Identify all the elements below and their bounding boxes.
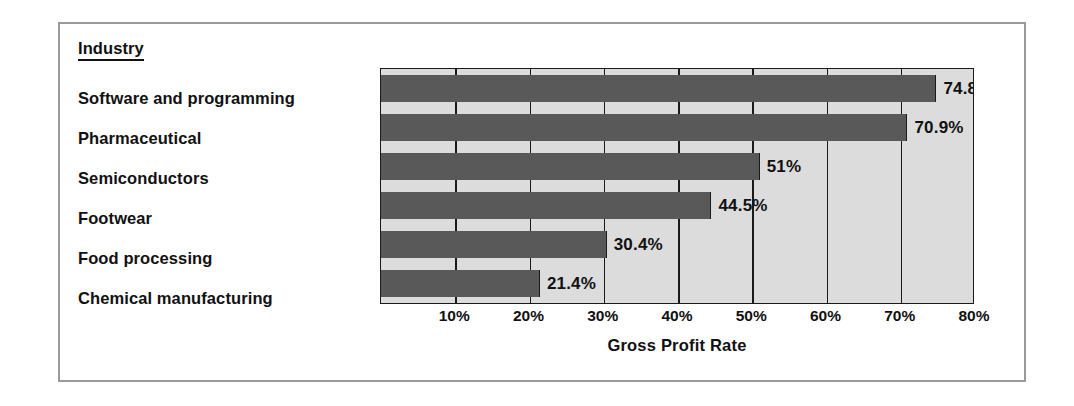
- bar-row-chemical-manufacturing: 21.4%: [381, 264, 973, 303]
- bar-row-footwear: 44.5%: [381, 186, 973, 225]
- category-label-footwear: Footwear: [78, 198, 378, 238]
- bar-row-software: 74.8%: [381, 69, 973, 108]
- x-tick-10%: 10%: [439, 307, 470, 325]
- category-label-pharmaceutical: Pharmaceutical: [78, 118, 378, 158]
- bar-row-semiconductors: 51%: [381, 147, 973, 186]
- bar-pharmaceutical: [381, 114, 907, 141]
- x-axis-title: Gross Profit Rate: [380, 336, 974, 355]
- bar-row-food-processing: 30.4%: [381, 225, 973, 264]
- bar-food-processing: [381, 231, 607, 258]
- bar-value-label-food-processing: 30.4%: [614, 235, 663, 255]
- bar-value-label-semiconductors: 51%: [767, 157, 802, 177]
- bar-value-label-chemical-manufacturing: 21.4%: [547, 274, 596, 294]
- x-tick-20%: 20%: [513, 307, 544, 325]
- category-label-food-processing: Food processing: [78, 238, 378, 278]
- x-tick-50%: 50%: [736, 307, 767, 325]
- bar-semiconductors: [381, 153, 760, 180]
- bar-value-label-software: 74.8%: [943, 79, 974, 99]
- x-tick-60%: 60%: [810, 307, 841, 325]
- bar-software: [381, 75, 936, 102]
- bar-chart: 74.8%70.9%51%44.5%30.4%21.4% 10%20%30%40…: [380, 68, 976, 306]
- industry-column-header: Industry: [78, 38, 144, 61]
- category-label-chemical-manufacturing: Chemical manufacturing: [78, 278, 378, 318]
- x-tick-40%: 40%: [661, 307, 692, 325]
- x-tick-70%: 70%: [884, 307, 915, 325]
- figure-frame: Industry Software and programming Pharma…: [58, 22, 1026, 382]
- industry-label-column: Industry Software and programming Pharma…: [78, 38, 378, 328]
- x-axis-tick-labels: 10%20%30%40%50%60%70%80%: [380, 306, 974, 332]
- category-label-semiconductors: Semiconductors: [78, 158, 378, 198]
- bar-footwear: [381, 192, 711, 219]
- x-tick-30%: 30%: [587, 307, 618, 325]
- plot-area: 74.8%70.9%51%44.5%30.4%21.4%: [380, 68, 974, 304]
- category-label-software: Software and programming: [78, 78, 378, 118]
- bar-row-pharmaceutical: 70.9%: [381, 108, 973, 147]
- bar-value-label-footwear: 44.5%: [718, 196, 767, 216]
- bar-value-label-pharmaceutical: 70.9%: [914, 118, 963, 138]
- bar-series: 74.8%70.9%51%44.5%30.4%21.4%: [381, 69, 973, 303]
- x-tick-80%: 80%: [958, 307, 989, 325]
- bar-chemical-manufacturing: [381, 270, 540, 297]
- category-label-list: Software and programming Pharmaceutical …: [78, 78, 378, 318]
